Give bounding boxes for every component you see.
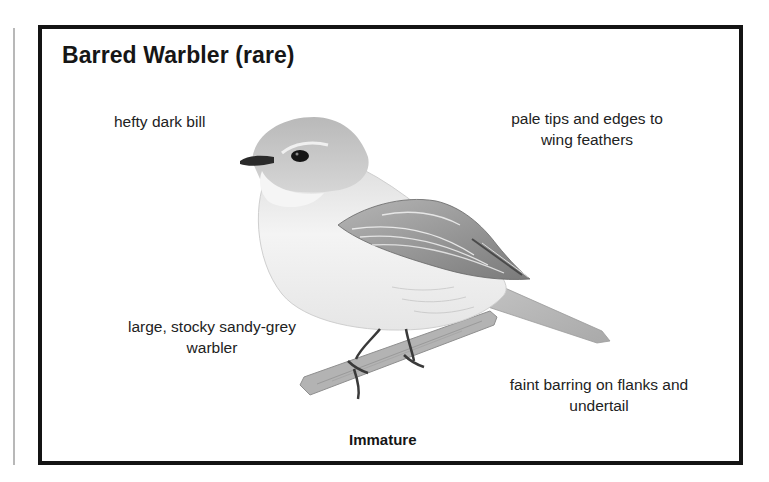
annotation-wing-line-1: pale tips and edges to <box>482 108 692 129</box>
annotation-wing-line-2: wing feathers <box>482 129 692 150</box>
field-guide-card: Barred Warbler (rare) hefty dark bill pa… <box>38 25 743 465</box>
annotation-size-line-1: large, stocky sandy-grey <box>112 316 312 337</box>
annotation-bill: hefty dark bill <box>114 111 205 132</box>
annotation-wing-feathers: pale tips and edges to wing feathers <box>482 108 692 150</box>
annotation-barring: faint barring on flanks and undertail <box>474 374 724 416</box>
annotation-bill-text: hefty dark bill <box>114 113 205 130</box>
annotation-size-line-2: warbler <box>112 337 312 358</box>
annotation-barring-line-2: undertail <box>474 395 724 416</box>
annotation-size: large, stocky sandy-grey warbler <box>112 316 312 358</box>
annotation-barring-line-1: faint barring on flanks and <box>474 374 724 395</box>
page-margin-rule <box>13 28 15 465</box>
age-caption: Immature <box>349 431 417 448</box>
card-title: Barred Warbler (rare) <box>62 42 295 69</box>
